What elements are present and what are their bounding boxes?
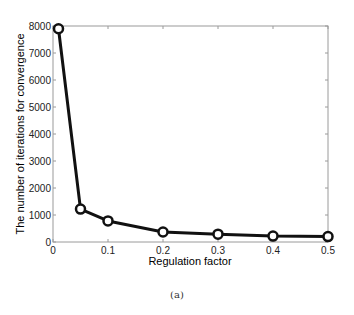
y-tick-label: 1000 [29,210,52,221]
y-tick-label: 6000 [29,75,52,86]
data-point-marker [159,228,168,237]
data-point-marker [269,232,278,241]
figure-caption: (a) [0,289,354,300]
x-axis-label: Regulation factor [148,255,231,267]
series-line [59,29,329,237]
x-tick-label: 0.5 [321,245,335,256]
y-tick-label: 5000 [29,102,52,113]
x-axis-ticks: 00.10.20.30.40.5 [50,26,335,256]
y-tick-label: 0 [45,237,51,248]
x-tick-label: 0 [50,245,56,256]
y-axis-label: The number of iterations for convergence [14,33,26,234]
y-tick-label: 8000 [29,21,52,32]
x-tick-label: 0.1 [101,245,115,256]
y-tick-label: 3000 [29,156,52,167]
y-axis-ticks: 010002000300040005000600070008000 [29,21,328,248]
data-point-marker [214,230,223,239]
y-tick-label: 2000 [29,183,52,194]
line-chart: 00.10.20.30.40.5 01000200030004000500060… [0,0,354,290]
data-point-marker [324,232,333,241]
data-point-marker [54,24,63,33]
data-point-marker [76,205,85,214]
y-tick-label: 7000 [29,48,52,59]
data-point-marker [104,216,113,225]
data-series [54,24,333,241]
y-tick-label: 4000 [29,129,52,140]
axes-box [53,26,328,242]
x-tick-label: 0.4 [266,245,280,256]
